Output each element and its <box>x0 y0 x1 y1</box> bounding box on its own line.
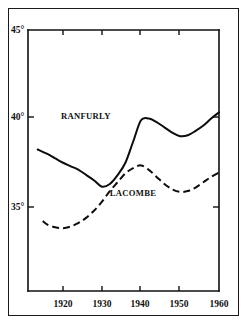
chart-figure: 45° 40° 35° 1920 1930 1940 1950 1960 RAN… <box>0 0 247 325</box>
x-axis-label-1960: 1960 <box>210 299 229 309</box>
series-annotation-ranfurly: RANFURLY <box>61 111 111 121</box>
y-axis-label-35: 35° <box>11 202 25 212</box>
plot-axes <box>28 30 219 291</box>
series-annotation-lacombe: LACOMBE <box>110 188 157 198</box>
y-axis-label-40: 40° <box>11 112 25 122</box>
series-line-ranfurly <box>38 112 219 186</box>
y-axis-label-45: 45° <box>11 25 25 35</box>
x-axis-label-1930: 1930 <box>93 299 112 309</box>
y-axis-ticks-right <box>213 117 219 207</box>
line-chart-plot: 45° 40° 35° 1920 1930 1940 1950 1960 RAN… <box>0 0 247 325</box>
x-axis-label-1940: 1940 <box>131 299 150 309</box>
x-axis-label-1950: 1950 <box>170 299 189 309</box>
y-axis-ticks <box>28 117 34 207</box>
x-axis-label-1920: 1920 <box>54 299 73 309</box>
